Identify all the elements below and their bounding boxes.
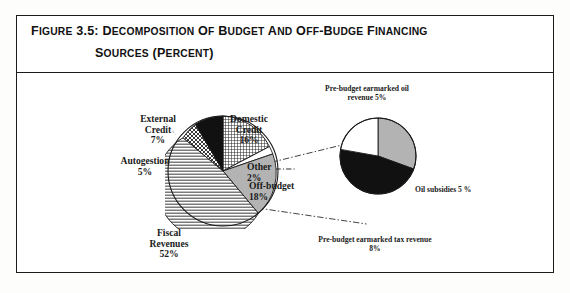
label-prebudget-earmarked-oil-revenue: Pre-budget earmarked oil revenue 5%: [303, 85, 431, 102]
label-domestic-credit: Domestic Credit 16%: [213, 114, 285, 146]
label-fiscal-revenues: Fiscal Revenues 52%: [129, 228, 209, 260]
figure-title-band: FIGURE 3.5: DECOMPOSITION OF BUDGET AND …: [17, 16, 553, 73]
figure-title-line-2: SOURCES (PERCENT): [95, 46, 214, 60]
pie-chart-off-budget-decomposition: [337, 115, 419, 197]
label-prebudget-earmarked-tax-revenue: Pre-budget earmarked tax revenue 8%: [295, 236, 455, 253]
figure-frame: FIGURE 3.5: DECOMPOSITION OF BUDGET AND …: [16, 15, 554, 273]
figure-screenshot: FIGURE 3.5: DECOMPOSITION OF BUDGET AND …: [0, 0, 570, 293]
pie-right-svg: [337, 115, 419, 197]
label-off-budget: Off-budget 18%: [249, 181, 323, 202]
label-autogestion: Autogestion 5%: [103, 156, 187, 177]
pie-slice-prebudget-oil-revenue: [341, 118, 378, 156]
figure-plot-area: External Credit 7% Domestic Credit 16% A…: [17, 73, 553, 272]
label-external-credit: External Credit 7%: [121, 114, 195, 146]
figure-title-line-1: FIGURE 3.5: DECOMPOSITION OF BUDGET AND …: [31, 24, 428, 38]
label-oil-subsidies: Oil subsidies 5 %: [415, 186, 531, 195]
